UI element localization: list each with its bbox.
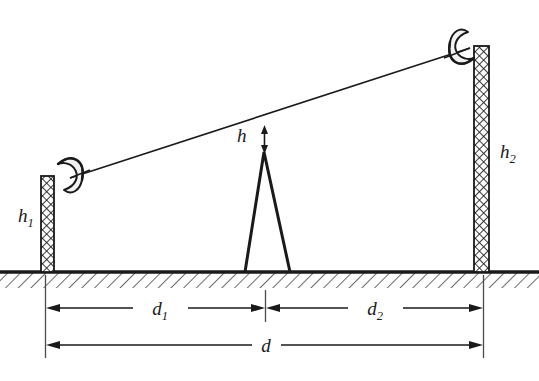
ground-hatching bbox=[0, 272, 539, 290]
left-tower-mast bbox=[41, 176, 54, 272]
right-tower-mast bbox=[474, 46, 489, 272]
diagram-canvas: d1 d2 d h1 h2 bbox=[0, 0, 539, 381]
left-parabolic-dish bbox=[58, 158, 90, 192]
dimension-label-d2: d2 bbox=[367, 298, 383, 323]
dimension-label-d: d bbox=[261, 335, 271, 356]
dimension-d2: d2 bbox=[266, 298, 483, 323]
clearance-arrow bbox=[261, 125, 268, 154]
dimension-d1: d1 bbox=[46, 298, 265, 323]
dimension-d: d bbox=[46, 335, 483, 356]
microwave-link-path-profile-figure: d1 d2 d h1 h2 bbox=[0, 0, 539, 381]
dimension-label-d1: d1 bbox=[152, 298, 168, 323]
height-label-h1: h1 bbox=[18, 205, 34, 230]
right-parabolic-dish bbox=[444, 30, 474, 64]
clearance-label-h: h bbox=[237, 125, 247, 146]
line-of-sight-path bbox=[70, 48, 470, 178]
height-label-h2: h2 bbox=[500, 141, 516, 166]
terrain-obstacle-peak bbox=[245, 152, 290, 272]
